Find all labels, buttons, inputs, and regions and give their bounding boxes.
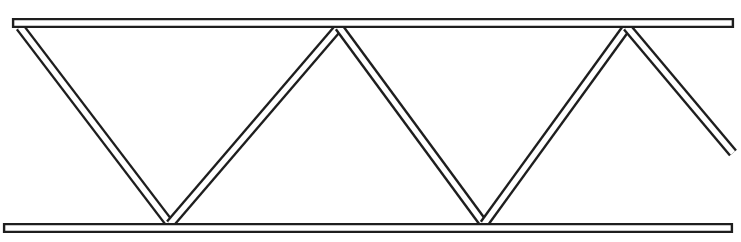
diagonal-2-fill	[170, 27, 339, 224]
diagonal-2	[170, 27, 339, 224]
diagonal-5-fill	[627, 27, 733, 153]
diagonal-1	[20, 27, 170, 224]
diagonal-members	[20, 27, 733, 224]
chord-members	[8, 23, 729, 228]
truss-diagram	[0, 0, 741, 242]
diagonal-4	[484, 27, 627, 224]
diagonal-1-fill	[20, 27, 170, 224]
diagonal-5	[627, 27, 733, 153]
diagonal-3	[339, 27, 484, 224]
diagonal-3-fill	[339, 27, 484, 224]
diagonal-4-fill	[484, 27, 627, 224]
truss-drawing	[0, 0, 741, 242]
